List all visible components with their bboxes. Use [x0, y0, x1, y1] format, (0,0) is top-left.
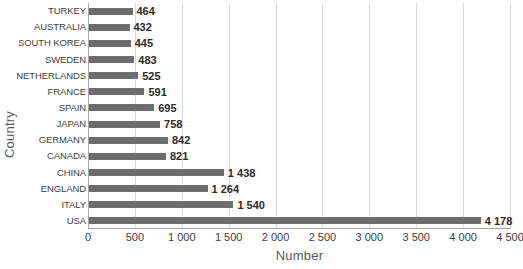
- category-label: SWEDEN: [45, 54, 86, 66]
- category-label: TURKEY: [48, 5, 86, 17]
- bar-chart: Country TURKEYAUSTRALIASOUTH KOREASWEDEN…: [0, 0, 523, 269]
- category-label: ENGLAND: [41, 183, 86, 195]
- bar-value-label: 1 540: [237, 199, 265, 211]
- bar: [89, 104, 154, 111]
- gridline: [276, 3, 277, 229]
- x-tick-label: 1 500: [215, 231, 243, 243]
- bar-value-label: 445: [135, 37, 153, 49]
- bar: [89, 169, 224, 176]
- bar-value-label: 842: [172, 134, 190, 146]
- bar: [89, 185, 208, 192]
- x-tick-label: 2 500: [309, 231, 337, 243]
- y-axis-line: [88, 3, 89, 229]
- gridline: [182, 3, 183, 229]
- gridline: [369, 3, 370, 229]
- x-tick-label: 2 000: [262, 231, 290, 243]
- bar-value-label: 591: [148, 86, 166, 98]
- bar: [89, 24, 130, 31]
- x-axis-tick-labels: 05001 0001 5002 0002 5003 0003 5004 0004…: [88, 231, 511, 247]
- bar-value-label: 483: [138, 54, 156, 66]
- bar-value-label: 1 438: [228, 167, 256, 179]
- category-label: SPAIN: [59, 102, 86, 114]
- bar-value-label: 1 264: [212, 183, 240, 195]
- category-label: GERMANY: [39, 134, 86, 146]
- category-label: SOUTH KOREA: [18, 37, 86, 49]
- bar: [89, 72, 138, 79]
- bar-value-label: 464: [137, 5, 155, 17]
- x-tick-label: 3 500: [402, 231, 430, 243]
- bar-value-label: 758: [164, 118, 182, 130]
- bar: [89, 8, 133, 15]
- category-label: FRANCE: [48, 86, 86, 98]
- gridline: [463, 3, 464, 229]
- category-label: JAPAN: [57, 118, 86, 130]
- x-tick-label: 0: [85, 231, 91, 243]
- category-label: AUSTRALIA: [34, 21, 86, 33]
- gridline: [229, 3, 230, 229]
- bar-value-label: 432: [134, 21, 152, 33]
- category-label: CANADA: [47, 150, 86, 162]
- category-label: CHINA: [57, 167, 86, 179]
- x-axis-line: [88, 228, 511, 229]
- plot-area: 4644324454835255916957588428211 4381 264…: [88, 3, 510, 229]
- bar: [89, 40, 131, 47]
- x-tick-label: 500: [126, 231, 144, 243]
- bar: [89, 56, 134, 63]
- bar: [89, 88, 144, 95]
- gridline: [416, 3, 417, 229]
- bar-value-label: 525: [142, 70, 160, 82]
- x-tick-label: 4 500: [496, 231, 523, 243]
- bar: [89, 121, 160, 128]
- gridline: [510, 3, 511, 229]
- bar-value-label: 821: [170, 150, 188, 162]
- bar: [89, 217, 481, 224]
- bar: [89, 137, 168, 144]
- x-axis-title: Number: [88, 248, 511, 263]
- category-label: ITALY: [62, 199, 87, 211]
- gridline: [322, 3, 323, 229]
- x-tick-label: 1 000: [168, 231, 196, 243]
- category-label: NETHERLANDS: [16, 70, 86, 82]
- category-label: USA: [67, 215, 86, 227]
- bar: [89, 201, 233, 208]
- x-tick-label: 4 000: [449, 231, 477, 243]
- bar-value-label: 695: [158, 102, 176, 114]
- bar-value-label: 4 178: [485, 215, 513, 227]
- bar: [89, 153, 166, 160]
- x-tick-label: 3 000: [356, 231, 384, 243]
- y-axis-category-labels: TURKEYAUSTRALIASOUTH KOREASWEDENNETHERLA…: [16, 3, 88, 229]
